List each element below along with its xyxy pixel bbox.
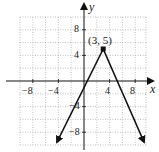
y-axis-label: y — [89, 2, 94, 12]
y-tick-8: 8 — [74, 24, 79, 34]
x-tick-neg8: −8 — [22, 86, 33, 96]
x-tick-neg4: −4 — [48, 86, 59, 96]
vertex-label: (3, 5) — [88, 35, 112, 45]
y-tick-4: 4 — [74, 50, 79, 60]
y-tick-neg8: −8 — [69, 127, 80, 137]
x-tick-4: 4 — [105, 86, 110, 96]
y-tick-neg4: −4 — [69, 101, 80, 111]
x-tick-8: 8 — [130, 86, 135, 96]
vertex-point — [101, 47, 106, 52]
x-axis-label: x — [150, 84, 155, 94]
left-branch — [57, 49, 103, 142]
